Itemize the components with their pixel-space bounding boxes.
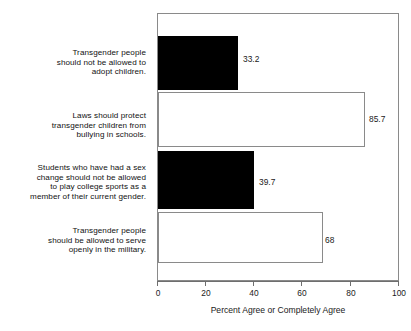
x-tick-1: [205, 281, 206, 286]
x-tick-label-0: 0: [156, 288, 161, 298]
x-tick-label-5: 100: [392, 288, 406, 298]
x-axis-line: [157, 281, 399, 282]
bar-value-0: 33.2: [243, 55, 259, 64]
x-axis-title: Percent Agree or Completely Agree: [157, 305, 399, 315]
x-tick-5: [398, 281, 399, 286]
category-label-0: Transgender peopleshould not be allowed …: [0, 48, 146, 77]
category-label-2: Students who have had a sexchange should…: [0, 163, 146, 201]
plot-area: [157, 13, 399, 281]
bar-value-3: 68: [325, 236, 334, 245]
x-tick-label-3: 60: [297, 288, 306, 298]
category-label-3: Transgender peopleshould be allowed to s…: [0, 226, 146, 255]
x-tick-label-2: 40: [249, 288, 258, 298]
x-tick-4: [350, 281, 351, 286]
x-tick-label-4: 80: [346, 288, 355, 298]
x-tick-3: [301, 281, 302, 286]
x-tick-0: [157, 281, 158, 286]
bar-chart: Transgender peopleshould not be allowed …: [0, 0, 411, 331]
bar-value-1: 85.7: [369, 115, 385, 124]
bar-value-2: 39.7: [259, 178, 275, 187]
x-tick-label-1: 20: [201, 288, 210, 298]
category-labels: Transgender peopleshould not be allowed …: [0, 13, 152, 281]
x-tick-2: [253, 281, 254, 286]
category-label-1: Laws should protecttransgender children …: [0, 111, 146, 140]
